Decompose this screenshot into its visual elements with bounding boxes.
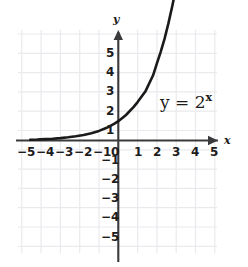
y-tick-label-2: 2 [106,105,114,117]
x-tick-label--5: −5 [17,146,35,158]
x-axis-arrow [208,136,218,145]
x-tick-label-4: 4 [191,146,199,158]
y-tick-label-4: 4 [106,66,114,78]
x-tick-label--4: −4 [36,146,54,158]
coordinate-plane [0,0,248,267]
exponential-curve [30,0,175,140]
y-tick-label--1: −1 [101,154,119,166]
graph-figure: −5 −4 −3 −2 −1 0 1 2 3 4 5 5 4 3 2 1 −1 … [0,0,248,267]
equation-annotation: y = 2x [160,92,212,111]
y-tick-label-5: 5 [106,47,114,59]
y-tick-label--4: −4 [101,211,119,223]
y-tick-label-3: 3 [106,85,114,97]
y-tick-label--5: −5 [101,231,119,243]
y-tick-label-1: 1 [106,124,114,136]
x-tick-label-3: 3 [172,146,180,158]
equation-base: y = 2 [160,92,205,112]
equation-exponent: x [205,91,212,104]
y-tick-label--3: −3 [101,192,119,204]
x-tick-label--2: −2 [74,146,92,158]
x-tick-label--3: −3 [55,146,73,158]
y-axis-label: y [113,14,119,25]
x-axis [16,136,218,145]
y-tick-label--2: −2 [101,173,119,185]
x-axis-label: x [224,135,231,146]
x-tick-label-2: 2 [153,146,161,158]
y-axis-arrow [114,30,123,40]
x-tick-label-1: 1 [134,146,142,158]
x-tick-label-5: 5 [210,146,218,158]
